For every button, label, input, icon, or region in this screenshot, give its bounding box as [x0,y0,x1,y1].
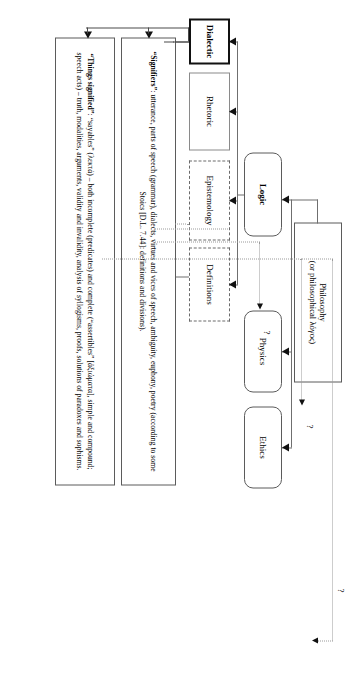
detail-box-things-signified[interactable]: “Things signified”: “sayables” (λεκτά) –… [55,37,115,485]
detail-box-things-signified-text: “Things signified”: “sayables” (λεκτά) –… [74,46,96,476]
node-rhetoric[interactable]: Rhetoric [189,72,230,150]
dotted-to-ethics-h [301,258,302,399]
diagram-stage: Philosophy (or philosophical λόγος) Ethi… [0,0,360,697]
node-ethics[interactable]: Ethics [244,406,282,488]
node-epistemology-label: Epistemology [204,161,215,239]
node-logic[interactable]: Logic [244,152,282,236]
dotted-to-ethics-v [102,258,302,259]
dotted-to-physics-v [155,241,260,242]
feeder-boxes-riser [86,27,189,28]
edge-defs-to-signifiers-v [176,276,189,277]
arrowhead-ethics-dotted [300,399,306,405]
edge-logic-stub [238,194,244,195]
dotted-top-drop [316,640,333,641]
arrowhead-top-dotted [312,637,318,643]
arrowhead-logic [282,195,289,203]
diagram-canvas: Philosophy (or philosophical λόγος) Ethi… [0,0,360,697]
node-dialectic-label: Dialectic [204,20,215,62]
node-physics-label: Physics [258,311,269,391]
edge-branch-bus [291,199,292,447]
node-logic-label: Logic [258,153,269,235]
philosophy-line-1: Philosophy [318,283,328,322]
dotted-bus-a [155,228,228,229]
dotted-to-physics-h [259,241,260,303]
node-ethics-label: Ethics [258,407,269,487]
annotation-question-physics: ? [262,330,272,334]
annotation-question-ethics: ? [305,424,315,428]
edge-philosophy-stub [317,199,318,223]
arrowhead-physics [282,347,289,355]
feeder-signifiers-arm [148,27,149,33]
edge-defs-link [237,194,238,284]
arrowhead-dialectic [229,37,236,45]
annotation-question-top: ? [336,588,346,592]
feeder-dialectic-down [164,41,189,42]
arrowhead-epistemology [229,196,236,204]
arrowhead-ethics [282,443,289,451]
arrowhead-rhetoric [229,107,236,115]
node-rhetoric-label: Rhetoric [204,73,215,149]
dotted-top-riser [302,258,333,259]
arrowhead-signifiers [145,31,153,38]
arrowhead-physics-dotted [258,303,264,309]
dotted-epistemology-down [175,223,189,224]
arrowhead-things-signified [84,31,92,38]
detail-box-signifiers-text: “Signifiers”: utterance, parts of speech… [138,46,160,476]
node-philosophy-label: Philosophy (or philosophical λόγος) [308,223,329,381]
node-dialectic[interactable]: Dialectic [189,18,230,64]
dotted-top-run [332,258,333,640]
detail-box-signifiers[interactable]: “Signifiers”: utterance, parts of speech… [121,37,176,485]
node-physics[interactable]: Physics [244,310,282,392]
feeder-things-arm [87,27,88,33]
edge-philosophy-bus [292,199,318,200]
arrowhead-definitions [229,280,236,288]
feeder-boxes-top [188,27,189,41]
philosophy-line-2: (or philosophical λόγος) [308,260,318,343]
